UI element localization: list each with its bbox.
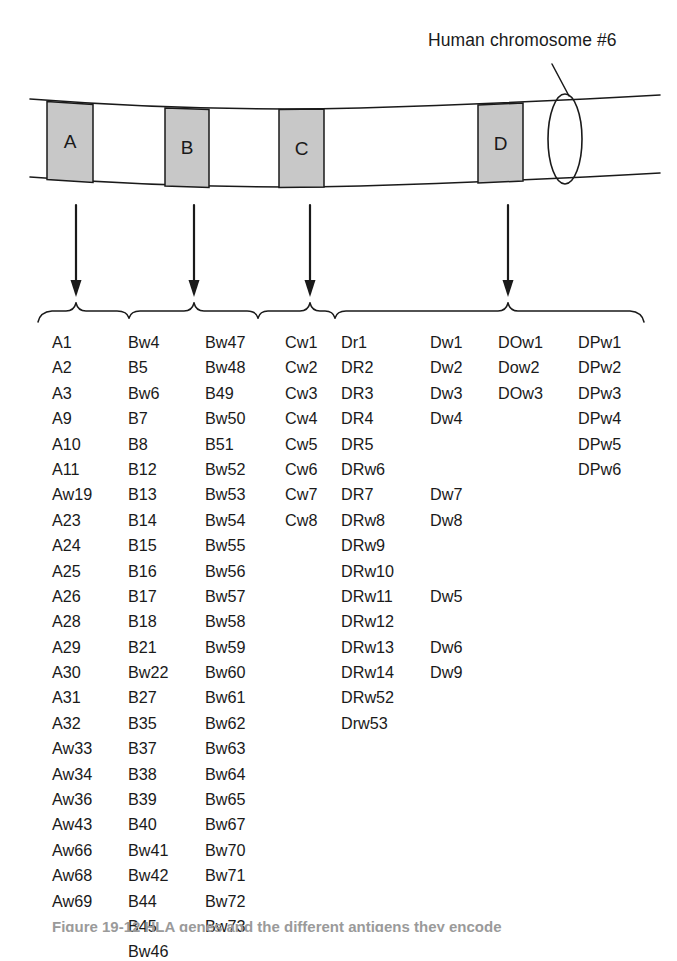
band-arrows [76,205,508,288]
allele-cell: Bw62 [205,711,246,736]
allele-column-dw-locus: Dw1Dw2Dw3Dw4 Dw7Dw8 Dw5 Dw6Dw9 [430,330,462,685]
allele-cell: Bw46 [128,939,169,961]
allele-cell: DPw4 [578,406,621,431]
allele-cell: DOw1 [498,330,543,355]
allele-cell: B8 [128,432,169,457]
allele-cell: Bw63 [205,736,246,761]
allele-cell: B37 [128,736,169,761]
allele-cell: A11 [52,457,92,482]
allele-cell: Cw5 [285,432,317,457]
allele-cell: B40 [128,812,169,837]
chromosome-band-d [478,103,523,183]
figure-caption: Figure 19-12 HLA genes and the different… [52,919,652,932]
allele-cell: B35 [128,711,169,736]
allele-cell: A3 [52,381,92,406]
allele-cell: Cw1 [285,330,317,355]
allele-cell: DRw9 [341,533,394,558]
allele-cell: Dw6 [430,635,462,660]
allele-cell: DPw1 [578,330,621,355]
allele-cell: Bw57 [205,584,246,609]
allele-cell: B14 [128,508,169,533]
allele-cell: DPw2 [578,355,621,380]
allele-cell: Bw61 [205,685,246,710]
allele-cell: DRw14 [341,660,394,685]
chromosome-region-ellipse [548,94,582,184]
allele-cell: A24 [52,533,92,558]
allele-cell: DR4 [341,406,394,431]
allele-cell: DOw3 [498,381,543,406]
allele-cell: B17 [128,584,169,609]
allele-cell: Dr1 [341,330,394,355]
allele-cell: Cw4 [285,406,317,431]
allele-cell: DR7 [341,482,394,507]
allele-cell: Cw8 [285,508,317,533]
allele-cell: B16 [128,559,169,584]
allele-cell: B18 [128,609,169,634]
allele-cell: B44 [128,889,169,914]
allele-cell: DPw5 [578,432,621,457]
allele-cell: B39 [128,787,169,812]
allele-cell: Aw34 [52,762,92,787]
allele-cell: B5 [128,355,169,380]
allele-cell: Dw2 [430,355,462,380]
allele-cell: Bw4 [128,330,169,355]
allele-cell: A29 [52,635,92,660]
allele-cell: Bw60 [205,660,246,685]
allele-cell: DR2 [341,355,394,380]
allele-cell: Dw3 [430,381,462,406]
allele-cell: DPw6 [578,457,621,482]
allele-cell: Aw19 [52,482,92,507]
allele-cell: Drw53 [341,711,394,736]
allele-cell: Cw7 [285,482,317,507]
allele-cell: B49 [205,381,246,406]
callout-leader-line [552,64,569,96]
allele-cell: Bw22 [128,660,169,685]
allele-cell: Aw33 [52,736,92,761]
allele-cell: B51 [205,432,246,457]
allele-cell: Bw53 [205,482,246,507]
allele-cell: Bw52 [205,457,246,482]
allele-column-a-locus: A1A2A3A9A10A11Aw19A23A24A25A26A28A29A30A… [52,330,92,914]
allele-cell: Bw71 [205,863,246,888]
allele-cell: B12 [128,457,169,482]
allele-cell: Dw7 [430,482,462,507]
allele-cell: Bw6 [128,381,169,406]
allele-cell: Dw8 [430,508,462,533]
band-label-c: C [279,138,324,160]
allele-cell: B15 [128,533,169,558]
allele-cell: A10 [52,432,92,457]
allele-cell: Bw54 [205,508,246,533]
allele-cell: A2 [52,355,92,380]
allele-cell: A30 [52,660,92,685]
allele-cell: Aw69 [52,889,92,914]
chromosome-band-a [47,102,93,183]
allele-cell: A25 [52,559,92,584]
allele-cell: DPw3 [578,381,621,406]
allele-cell: Bw72 [205,889,246,914]
allele-cell: Dw5 [430,584,462,609]
allele-cell-empty [430,432,462,457]
allele-cell: DRw6 [341,457,394,482]
allele-cell: Bw64 [205,762,246,787]
allele-column-b-locus-part1: Bw4B5Bw6B7B8B12B13B14B15B16B17B18B21Bw22… [128,330,169,961]
allele-cell: A31 [52,685,92,710]
allele-cell-empty [430,533,462,558]
allele-cell: B13 [128,482,169,507]
allele-cell: Aw66 [52,838,92,863]
allele-cell: Aw36 [52,787,92,812]
allele-cell: DRw8 [341,508,394,533]
allele-cell: A26 [52,584,92,609]
allele-cell: DRw11 [341,584,394,609]
allele-cell: Cw3 [285,381,317,406]
allele-cell: Bw65 [205,787,246,812]
chromosome-bottom-edge [30,173,660,187]
band-arrowheads [71,280,514,297]
allele-cell: Bw41 [128,838,169,863]
chromosome-top-edge [30,95,660,109]
figure-caption-text: Figure 19-12 HLA genes and the different… [52,919,652,932]
allele-cell: A23 [52,508,92,533]
allele-cell: Aw43 [52,812,92,837]
allele-cell: Bw58 [205,609,246,634]
